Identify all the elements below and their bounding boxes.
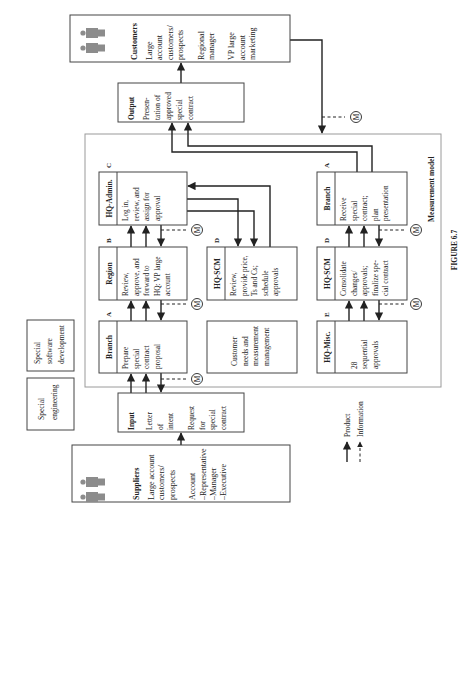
output-title: Output — [127, 96, 136, 120]
suppliers-line: –Manager — [209, 467, 218, 501]
hq-scm-d-2-title: HQ-SCM — [323, 258, 332, 289]
hq-admin-c-line: approval — [153, 195, 162, 221]
customers-line: account — [238, 34, 247, 60]
person-body — [86, 492, 98, 502]
input-line: Letter — [145, 412, 154, 430]
special-engineering-line: engineering — [50, 384, 59, 420]
branch-a-1-title: Branch — [105, 334, 114, 359]
suppliers-line: customers/ — [157, 465, 166, 500]
hq-admin-c-line: assign for — [142, 192, 151, 221]
branch-to-output-arrow-2 — [188, 123, 372, 172]
measurement-marker: M — [411, 299, 422, 310]
input-title: Input — [127, 412, 136, 430]
suppliers-line: prospects — [168, 470, 177, 500]
measurement-marker-label: M — [193, 375, 202, 382]
hq-scm-d-1-line: Ts and Cs; — [250, 265, 259, 296]
process-flow-diagram: Measurement modelCustomersLargeaccountcu… — [0, 0, 464, 680]
output-line: special — [175, 99, 184, 120]
hq-scm-d-2-line: finalize spe- — [371, 260, 380, 296]
branch-a-1-tag: A — [105, 312, 113, 317]
special-engineering-line: Special — [37, 398, 46, 420]
branch-a-1-line: special — [132, 349, 141, 369]
special-software-line: Special — [33, 342, 42, 364]
legend-product-label: Product — [343, 413, 352, 437]
suppliers-line: Large account — [147, 454, 156, 500]
hq-scm-d-2-line: cial contract — [381, 260, 390, 296]
hq-misc-e-line: sequential — [360, 339, 369, 369]
customers-line: marketing — [248, 28, 257, 60]
person-legs — [98, 494, 105, 501]
branch-a-1-line: Prepare — [121, 347, 130, 369]
special-software-line: development — [57, 324, 66, 364]
customers-line: prospects — [176, 30, 185, 60]
branch-a-2-tag: A — [323, 163, 331, 168]
hq-admin-c-tag: C — [105, 163, 113, 168]
branch-a-1-line: proposal — [153, 344, 162, 369]
output-line: Presen- — [142, 97, 151, 120]
input-line: for — [198, 421, 207, 430]
hq-scm-d-2-line: changes/ — [350, 269, 359, 296]
region-b-line: approve, and — [132, 258, 141, 296]
hq-scm-d-1-line: approvals — [271, 267, 280, 296]
hq-admin-c-line: review, and — [132, 187, 141, 221]
customers-line: manager — [207, 32, 216, 60]
measurement-marker: M — [192, 299, 203, 310]
customers-line: Regional — [197, 30, 206, 60]
measurement-marker: M — [411, 225, 422, 236]
hq-scm-d-1-title: HQ-SCM — [213, 258, 222, 289]
person-body — [86, 28, 98, 38]
input-line: intent — [166, 412, 175, 430]
customers-to-model-arrow — [290, 40, 322, 133]
person-head — [80, 45, 85, 50]
measurement-marker-label: M — [352, 113, 361, 120]
measurement-marker-label: M — [193, 300, 202, 307]
person-legs — [98, 30, 105, 37]
legend: ProductInformation — [343, 401, 365, 437]
hq-admin-c-line: Log in, — [121, 200, 130, 221]
suppliers-line: –Executive — [219, 464, 228, 501]
region-b-line: forward to — [142, 265, 151, 296]
hq-scm-d-1-tag: D — [213, 238, 221, 243]
output-line: tation of — [153, 94, 162, 120]
input-line: special — [208, 409, 217, 430]
customers-title: Customers — [130, 23, 139, 60]
region-b-line: Review, — [121, 272, 130, 296]
branch-a-2-line: presentation — [381, 185, 390, 221]
scm-to-admin-arrow — [188, 186, 270, 247]
input-line: of — [156, 423, 165, 430]
person-head — [80, 479, 85, 484]
output-line: approved — [164, 92, 173, 120]
hq-misc-e-title: HQ-Misc. — [323, 331, 332, 363]
input-line: contract — [219, 405, 228, 430]
figure-caption: FIGURE 6.7 — [450, 230, 459, 271]
region-b-tag: B — [105, 238, 113, 243]
customers-line: VP large — [227, 32, 236, 60]
person-legs — [98, 479, 105, 486]
measurement-marker-label: M — [412, 300, 421, 307]
hq-scm-d-2-line: Consolidate — [339, 261, 348, 296]
suppliers-line: –Representative — [199, 448, 208, 501]
special-software-line: software — [45, 338, 54, 364]
region-b-title: Region — [105, 261, 114, 284]
hq-misc-e-line: 28 — [350, 361, 359, 369]
person-head — [80, 30, 85, 35]
customer-needs-line: Customer — [230, 336, 239, 366]
measurement-marker-label: M — [193, 226, 202, 233]
measurement-marker-label: M — [412, 226, 421, 233]
customer-needs-line: measurement — [251, 325, 260, 366]
hq-scm-d-2-line: approvals; — [360, 266, 369, 296]
hq-misc-e-line: approvals — [371, 340, 380, 369]
suppliers-title: Suppliers — [132, 468, 141, 500]
measurement-model-label: Measurement model — [427, 157, 436, 222]
customers-line: account — [155, 34, 164, 60]
legend-information-label: Information — [356, 401, 365, 437]
branch-a-2-line: contract; — [360, 195, 369, 221]
region-b-line: HQ: VP large — [153, 256, 162, 296]
hq-admin-c-title: HQ-Admin. — [105, 179, 114, 217]
measurement-marker: M — [192, 225, 203, 236]
branch-a-2-title: Branch — [323, 186, 332, 211]
person-body — [86, 43, 98, 53]
hq-scm-d-1-line: provide price, — [240, 255, 249, 296]
customers-line: customers/ — [166, 25, 175, 60]
suppliers-box — [72, 445, 290, 502]
